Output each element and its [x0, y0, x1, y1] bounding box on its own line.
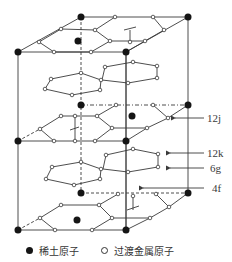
legend: 稀土原子 过渡金属原子 — [26, 242, 174, 258]
bottom-layer — [15, 190, 192, 234]
transition-metal-atom-icon — [101, 247, 108, 254]
rare-earth-atom-icon — [26, 247, 33, 254]
svg-text:12k: 12k — [207, 147, 224, 159]
svg-text:12j: 12j — [207, 112, 221, 124]
upper-middle-hexagons — [43, 60, 159, 97]
top-layer — [15, 14, 192, 56]
legend-rare-earth-label: 稀土原子 — [39, 243, 79, 258]
svg-text:6g: 6g — [210, 162, 222, 174]
svg-text:4f: 4f — [212, 182, 222, 194]
crystal-structure-diagram: 12j 12k 6g 4f — [0, 0, 232, 262]
site-label-12j: 12j — [175, 112, 221, 124]
unit-cell-frame — [18, 17, 188, 230]
site-label-6g: 6g — [170, 162, 222, 174]
lower-middle-hexagons — [44, 147, 160, 187]
site-label-12k: 12k — [170, 147, 224, 159]
middle-layer — [15, 102, 192, 145]
legend-transition-metal-label: 过渡金属原子 — [114, 243, 174, 258]
